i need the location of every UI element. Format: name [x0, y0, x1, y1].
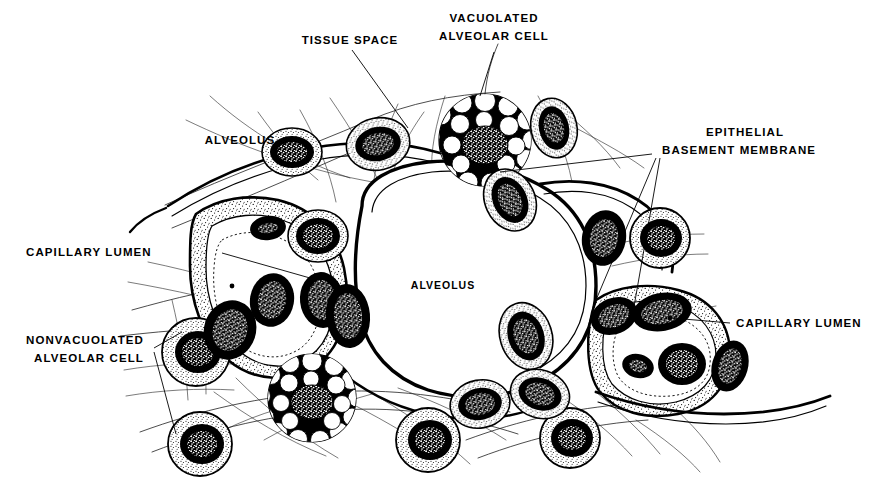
label-capillary-lumen-left: CAPILLARY LUMEN — [26, 246, 152, 258]
label-tissue-space-text: TISSUE SPACE — [302, 34, 399, 46]
label-nonvacuolated-line2: ALVEOLAR CELL — [34, 352, 144, 364]
label-tissue-space: TISSUE SPACE — [302, 34, 399, 46]
label-epithelial-line1: EPITHELIAL — [706, 126, 784, 138]
label-vacuolated-line1: VACUOLATED — [449, 12, 538, 24]
nonvacuolated-cell-right — [630, 208, 690, 268]
label-epithelial-line2: BASEMENT MEMBRANE — [662, 144, 816, 156]
nucleus — [288, 210, 348, 262]
label-alveolus-top-left: ALVEOLUS — [205, 134, 276, 146]
nonvacuolated-cell-lower-left — [168, 412, 232, 476]
label-capillary-lumen-right: CAPILLARY LUMEN — [736, 317, 862, 329]
label-alveolus-top-left-text: ALVEOLUS — [205, 134, 276, 146]
label-alveolus-center-text: ALVEOLUS — [411, 279, 475, 291]
figure-canvas: TISSUE SPACE VACUOLATED ALVEOLAR CELL EP… — [0, 0, 882, 478]
label-nonvacuolated-line1: NONVACUOLATED — [26, 334, 144, 346]
nonvacuolated-cell-bottom-center — [396, 408, 460, 472]
label-capillary-lumen-right-text: CAPILLARY LUMEN — [736, 317, 862, 329]
label-vacuolated-line2: ALVEOLAR CELL — [439, 30, 549, 42]
label-capillary-lumen-left-text: CAPILLARY LUMEN — [26, 246, 152, 258]
alveolar-wall-diagram: TISSUE SPACE VACUOLATED ALVEOLAR CELL EP… — [0, 0, 882, 478]
label-alveolus-center: ALVEOLUS — [411, 279, 475, 291]
nucleus — [658, 343, 706, 385]
